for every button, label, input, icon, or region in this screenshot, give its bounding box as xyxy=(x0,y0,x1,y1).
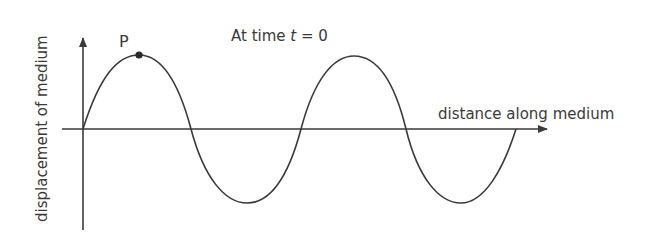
y-axis-label: displacement of medium xyxy=(33,35,51,222)
point-p-marker xyxy=(135,51,142,58)
title-suffix: = 0 xyxy=(296,27,328,45)
title-prefix: At time xyxy=(231,27,290,45)
point-p-label: P xyxy=(119,32,129,51)
diagram-title: At time t = 0 xyxy=(231,27,328,45)
x-axis-label: distance along medium xyxy=(438,105,614,123)
wave-diagram: P At time t = 0 distance along medium di… xyxy=(0,0,665,243)
